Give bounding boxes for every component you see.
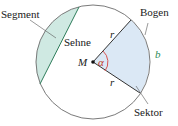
center-label: M [77,56,88,68]
arc-length-label: b [155,48,161,60]
angle-label: α [98,56,104,68]
radius-bottom-label: r [110,76,115,88]
arc-leader [145,23,148,35]
arc-label: Bogen [140,6,169,18]
sector-label: Sektor [134,106,163,118]
segment-label: Segment [1,8,40,20]
chord-label: Sehne [64,36,91,48]
circle-diagram: Segment Sehne Bogen Sektor M r r α b [0,0,178,126]
center-point [91,60,95,64]
radius-top-label: r [110,28,115,40]
